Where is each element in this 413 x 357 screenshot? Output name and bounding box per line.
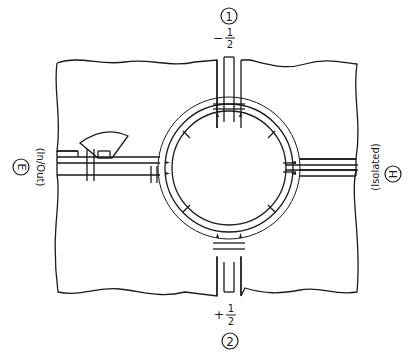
port-e-letter: E (15, 164, 28, 171)
hybrid-ring (158, 97, 300, 239)
port-1-number: 1 (225, 10, 233, 24)
port-h-letter: H (387, 170, 400, 178)
feed-line-port-1 (213, 57, 245, 128)
port-1-phase-denominator: 2 (227, 39, 233, 50)
port-2-number: 2 (226, 335, 234, 349)
feed-line-port-2 (213, 243, 245, 296)
ground-plane-top-right (241, 60, 358, 159)
port-2-phase-denominator: 2 (228, 316, 234, 327)
field-arrows (165, 112, 296, 238)
port-1-phase-sign: − (213, 31, 223, 45)
port-e-label: E (In/Out) (13, 148, 46, 187)
ground-plane-top-left (56, 60, 217, 151)
hybrid-ring-diagram: 1 − 1 2 + 1 2 2 E (In/Out) (Isolated) H (0, 0, 413, 357)
ground-plane-bottom-left (55, 175, 217, 296)
port-2-phase-numerator: 1 (228, 303, 234, 314)
port-2-phase-sign: + (214, 308, 224, 322)
port-2-label: + 1 2 2 (214, 303, 238, 349)
port-1-label: 1 − 1 2 (213, 8, 237, 50)
port-e-role: (In/Out) (35, 148, 46, 187)
port-1-phase-numerator: 1 (227, 27, 233, 38)
port-h-role: (Isolated) (370, 143, 381, 191)
port-h-label: (Isolated) H (370, 143, 402, 191)
feed-line-port-e (57, 149, 160, 183)
